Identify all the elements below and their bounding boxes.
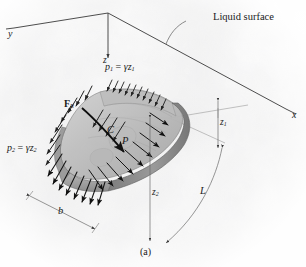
pressure-center-label: P bbox=[122, 136, 128, 147]
z1-dimension-label: z1 bbox=[220, 118, 227, 128]
figure-caption: (a) bbox=[140, 247, 151, 257]
figure-container: Liquid surface y x z p1 = γz1 p2 = γz2 F… bbox=[0, 0, 306, 267]
pressure-top-label: p1 = γz1 bbox=[105, 62, 135, 73]
diagram-canvas bbox=[0, 0, 306, 267]
resultant-force-label: FR bbox=[64, 99, 74, 110]
x-axis-label: x bbox=[292, 110, 296, 120]
z2-dimension-label: z2 bbox=[152, 188, 159, 198]
centroid-label: C bbox=[107, 125, 114, 136]
pressure-bottom-label: p2 = γz2 bbox=[7, 143, 37, 154]
y-axis-label: y bbox=[8, 29, 12, 39]
b-dimension-label: b bbox=[58, 206, 63, 217]
L-dimension-label: L bbox=[200, 186, 206, 197]
liquid-surface-label: Liquid surface bbox=[213, 12, 274, 23]
